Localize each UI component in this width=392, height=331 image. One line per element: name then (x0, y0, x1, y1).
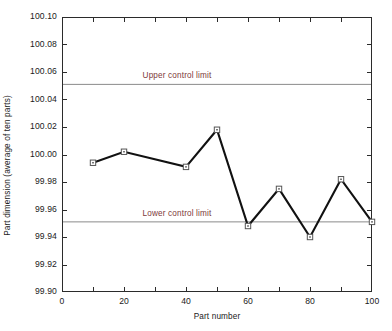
data-point-marker (369, 219, 374, 224)
axis-tick-marks (62, 17, 372, 292)
data-series-line (93, 130, 372, 237)
data-point-marker (183, 164, 188, 169)
data-point-marker (307, 234, 312, 239)
data-point-marker (338, 177, 343, 182)
data-point-marker (276, 186, 281, 191)
plot-canvas (0, 0, 392, 331)
data-point-marker (245, 223, 250, 228)
plot-frame (63, 18, 372, 292)
control-limit-lines (63, 84, 371, 222)
control-chart-figure: Part dimension (average of ten parts) Pa… (0, 0, 392, 331)
data-point-marker (214, 127, 219, 132)
data-point-marker (90, 160, 95, 165)
data-point-marker (121, 149, 126, 154)
data-point-markers (90, 127, 374, 240)
